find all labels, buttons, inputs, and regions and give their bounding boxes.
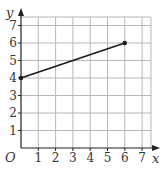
coordinate-plane: 12345671234567 x y O	[0, 0, 162, 171]
x-tick-label: 3	[69, 151, 77, 165]
y-tick-label: 3	[9, 89, 17, 103]
y-tick-label: 4	[9, 71, 17, 85]
y-tick-label: 6	[9, 36, 17, 50]
grid-lines	[21, 17, 151, 148]
y-axis-arrow-icon	[18, 8, 24, 16]
y-tick-label: 1	[9, 124, 17, 138]
x-tick-label: 6	[121, 151, 129, 165]
x-tick-label: 7	[138, 151, 146, 165]
x-tick-label: 4	[86, 151, 94, 165]
y-axis-label: y	[5, 5, 14, 20]
y-tick-label: 7	[9, 19, 17, 33]
y-tick-label: 5	[9, 54, 17, 68]
x-tick-label: 1	[34, 151, 42, 165]
origin-label: O	[5, 150, 16, 165]
axes	[18, 8, 160, 151]
x-tick-label: 2	[52, 151, 60, 165]
tick-labels: 12345671234567	[9, 19, 146, 166]
endpoint-marker	[19, 76, 23, 80]
x-axis-label: x	[152, 151, 160, 166]
endpoint-marker	[123, 41, 127, 45]
y-tick-label: 2	[9, 106, 17, 120]
x-tick-label: 5	[104, 151, 112, 165]
